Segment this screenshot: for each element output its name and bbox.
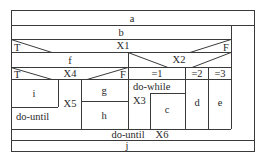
case-label-3: =3 (214, 68, 225, 79)
loop-x6-keyword: do-until (111, 129, 144, 140)
x4-false-label: F (120, 69, 126, 80)
x2-left-diagonal (128, 53, 168, 68)
block-j: j (125, 140, 129, 151)
x2-right-diagonal (192, 53, 231, 68)
block-e: e (218, 97, 223, 108)
block-c: c (165, 104, 170, 115)
condition-x1: X1 (117, 40, 130, 51)
condition-x4: X4 (64, 68, 78, 79)
loop-x3-keyword: do-while (133, 81, 171, 92)
block-b: b (118, 27, 123, 38)
nassi-shneiderman-diagram: a b X1 T F f X2 =1 =2 =3 X4 T F i do-unt… (0, 0, 263, 161)
case-label-2: =2 (191, 68, 202, 79)
loop-x3-condition: X3 (133, 95, 146, 106)
loop-x6-condition: X6 (156, 129, 169, 140)
x4-true-label: T (14, 69, 21, 80)
block-h: h (101, 110, 107, 121)
loop-x5-keyword: do-until (16, 111, 49, 122)
block-f: f (68, 55, 72, 66)
loop-x5-condition: X5 (64, 98, 77, 109)
condition-x2: X2 (173, 54, 186, 65)
block-i: i (33, 88, 36, 99)
block-d: d (194, 97, 200, 108)
block-a: a (130, 13, 135, 24)
case-label-1: =1 (151, 68, 162, 79)
x1-false-label: F (223, 42, 229, 53)
block-g: g (101, 85, 107, 96)
x1-true-label: T (14, 42, 21, 53)
